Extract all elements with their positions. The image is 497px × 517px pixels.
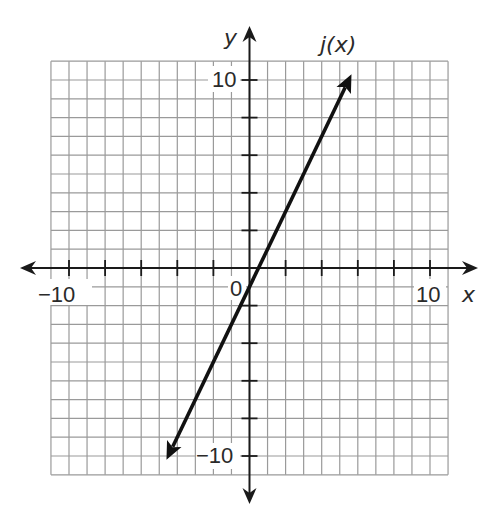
axes xyxy=(20,26,478,504)
x-axis-label: x xyxy=(461,282,476,307)
x-max-label: 10 xyxy=(416,282,440,307)
y-max-label: 10 xyxy=(212,67,236,92)
function-label: j(x) xyxy=(317,32,356,57)
coordinate-plane: −10 10 10 −10 0 y x j(x) xyxy=(0,0,497,517)
origin-label: 0 xyxy=(230,276,242,301)
y-min-label: −10 xyxy=(196,443,233,468)
y-axis-label: y xyxy=(223,25,238,50)
x-min-label: −10 xyxy=(38,282,75,307)
